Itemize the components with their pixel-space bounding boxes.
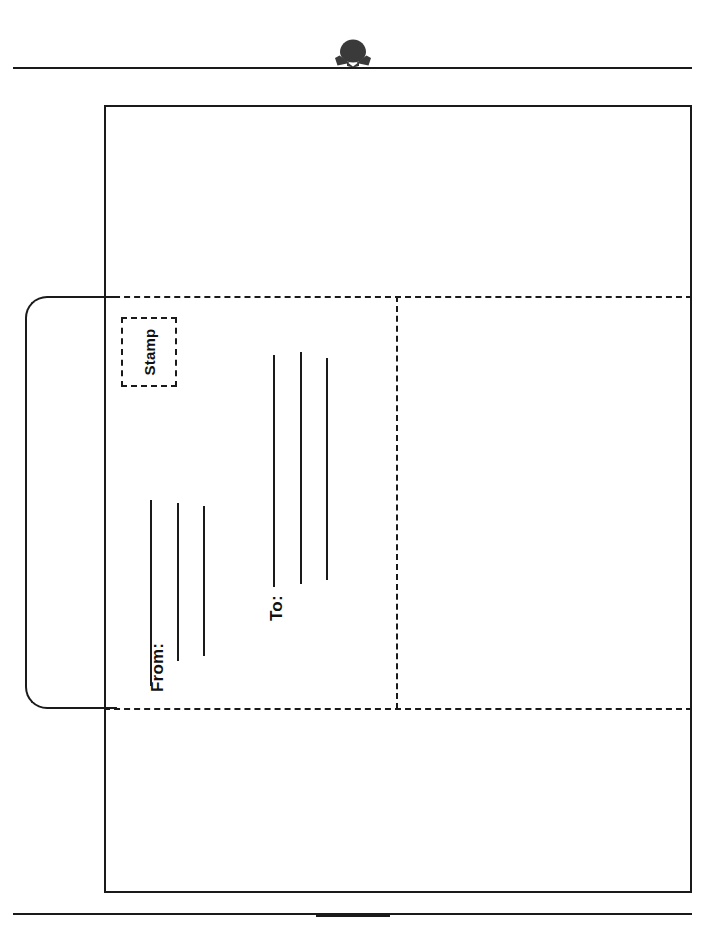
from-address-rule [150, 500, 152, 686]
envelope-template-page: Stamp To: From: [0, 0, 705, 928]
to-address-rule [300, 352, 302, 584]
fold-line-top [104, 296, 692, 298]
footer-center-tab [316, 913, 390, 917]
to-address-rule [273, 355, 275, 587]
envelope-outline [104, 105, 692, 893]
from-address-rule [177, 503, 179, 661]
envelope-left-flap [25, 296, 117, 709]
to-address-rule [326, 358, 328, 580]
mail-envelope-icon [329, 38, 377, 68]
to-field-label: To: [267, 595, 287, 621]
fold-line-bottom [104, 708, 692, 710]
stamp-label: Stamp [141, 329, 158, 376]
from-address-rule [203, 506, 205, 656]
header-divider-rule [13, 67, 692, 69]
fold-line-vertical [396, 296, 398, 709]
stamp-placement-box: Stamp [121, 317, 177, 387]
